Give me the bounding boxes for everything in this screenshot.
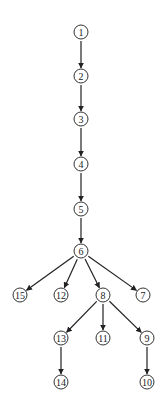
node-label: 3 — [79, 114, 84, 125]
node-label: 2 — [79, 71, 84, 82]
edge-arrow-6-to-12 — [64, 259, 77, 288]
tree-node-1: 1 — [74, 25, 88, 39]
tree-node-6: 6 — [74, 244, 88, 258]
edge-arrow-6-to-8 — [85, 259, 99, 288]
node-label: 7 — [141, 290, 146, 301]
edge-arrow-8-to-9 — [109, 301, 141, 332]
tree-node-11: 11 — [96, 331, 110, 345]
tree-node-14: 14 — [54, 375, 68, 389]
node-label: 8 — [101, 290, 106, 301]
node-label: 11 — [98, 333, 108, 344]
node-label: 9 — [145, 333, 150, 344]
edge-arrow-8-to-13 — [67, 301, 97, 332]
tree-node-7: 7 — [136, 288, 150, 302]
node-label: 12 — [56, 290, 66, 301]
node-label: 10 — [142, 377, 152, 388]
tree-node-2: 2 — [74, 69, 88, 83]
node-label: 1 — [79, 27, 84, 38]
edge-arrow-6-to-15 — [26, 256, 73, 290]
tree-node-8: 8 — [96, 288, 110, 302]
tree-node-3: 3 — [74, 112, 88, 126]
node-label: 4 — [79, 159, 84, 170]
nodes-layer: 123456151287131191410 — [13, 25, 154, 389]
node-label: 5 — [79, 204, 84, 215]
tree-diagram: 123456151287131191410 — [0, 0, 164, 410]
node-label: 13 — [56, 333, 66, 344]
tree-node-5: 5 — [74, 202, 88, 216]
tree-node-13: 13 — [54, 331, 68, 345]
node-label: 6 — [79, 246, 84, 257]
tree-node-15: 15 — [13, 288, 27, 302]
tree-node-10: 10 — [140, 375, 154, 389]
tree-node-12: 12 — [54, 288, 68, 302]
node-label: 15 — [15, 290, 25, 301]
node-label: 14 — [56, 377, 66, 388]
edge-arrow-6-to-7 — [88, 256, 136, 290]
tree-node-9: 9 — [140, 331, 154, 345]
tree-node-4: 4 — [74, 157, 88, 171]
